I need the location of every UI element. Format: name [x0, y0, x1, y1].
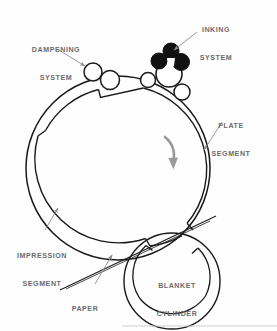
impression-segment-notch-upper-left [38, 131, 46, 137]
label-inking-line1: INKING [181, 26, 251, 35]
label-paper: PAPER [62, 287, 108, 331]
label-blanket-cylinder: BLANKET CYLINDER [145, 264, 209, 331]
label-impression-line1: IMPRESSION [2, 252, 82, 261]
label-plate-segment: PLATE SEGMENT [198, 104, 264, 178]
label-inking-line2: SYSTEM [181, 54, 251, 63]
ink-roller-gap [167, 58, 175, 66]
label-plate-line1: PLATE [198, 122, 264, 131]
label-plate-line2: SEGMENT [198, 150, 264, 159]
inking-form-roller-lower-right [174, 84, 190, 100]
label-blanket-line1: BLANKET [145, 282, 209, 291]
rotation-direction-arrowhead [168, 157, 178, 169]
ink-roller-left [151, 53, 167, 69]
dampening-roller-2 [101, 71, 120, 90]
press-diagram: DAMPENING SYSTEM INKING SYSTEM PLATE SEG… [0, 0, 277, 331]
plate-segment-gap-top [99, 88, 144, 98]
label-blanket-line2: CYLINDER [145, 310, 209, 319]
impression-segment-inner-arc-left [35, 136, 146, 243]
leader-line-impression [45, 208, 58, 230]
label-paper-line1: PAPER [62, 305, 108, 314]
inking-form-roller-left [141, 73, 156, 88]
label-dampening-line1: DAMPENING [14, 46, 98, 55]
label-dampening-line2: SYSTEM [14, 74, 98, 83]
blanket-notch-top-right [192, 248, 198, 254]
label-inking-system: INKING SYSTEM [181, 8, 251, 82]
label-dampening-system: DAMPENING SYSTEM [14, 28, 98, 102]
